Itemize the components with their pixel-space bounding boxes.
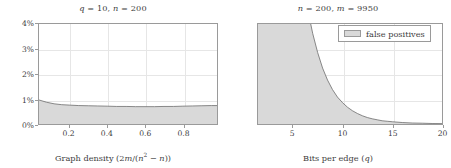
xtick-label-3: 0.8 xyxy=(177,129,189,138)
legend: false positives xyxy=(338,25,431,42)
ytick-label-1: 1% xyxy=(12,95,34,104)
xtick-label-right-2: 15 xyxy=(388,129,398,138)
ytick-label-2: 2% xyxy=(12,70,34,79)
xaxis-label-right: Bits per edge (q) xyxy=(225,153,451,163)
xtick-label-0: 0.2 xyxy=(63,129,75,138)
panel-left-title-n-value: = 200 xyxy=(121,3,147,13)
panel-right-title-m-value: = 9950 xyxy=(347,3,378,13)
xtick-label-2: 0.6 xyxy=(139,129,151,138)
legend-label-false-positives: false positives xyxy=(366,29,425,39)
xtick-mark-right-3 xyxy=(443,125,444,128)
panel-left-title: q = 10, n = 200 xyxy=(0,3,226,13)
xtick-mark-1 xyxy=(107,125,108,128)
figure-container: q = 10, n = 200 0% 1% 2% 3% 4% xyxy=(0,0,451,168)
panel-right-title: n = 200, m = 9950 xyxy=(225,3,451,13)
xtick-label-right-3: 20 xyxy=(438,129,448,138)
xtick-label-right-0: 5 xyxy=(290,129,295,138)
ytick-mark-0 xyxy=(35,125,38,126)
panel-left-title-n-label: n xyxy=(113,3,118,13)
xtick-mark-3 xyxy=(184,125,185,128)
panel-right-title-n-value: = 200, xyxy=(306,3,334,13)
xtick-label-1: 0.4 xyxy=(101,129,113,138)
ytick-label-0: 0% xyxy=(12,121,34,130)
xtick-mark-right-0 xyxy=(292,125,293,128)
plot-area-left xyxy=(38,23,218,125)
ytick-label-3: 3% xyxy=(12,44,34,53)
xtick-mark-2 xyxy=(145,125,146,128)
series-fill-left xyxy=(39,100,217,124)
panel-right-title-n-label: n xyxy=(298,3,303,13)
legend-swatch-icon xyxy=(344,30,361,37)
panel-right-title-m-label: m xyxy=(337,3,345,13)
series-area-left xyxy=(39,24,217,124)
panel-left-title-q-value: = 10, xyxy=(87,3,110,13)
chart-panel-left: q = 10, n = 200 0% 1% 2% 3% 4% xyxy=(0,0,226,168)
xtick-label-right-1: 10 xyxy=(338,129,348,138)
xtick-mark-0 xyxy=(69,125,70,128)
xaxis-label-left: Graph density (2m/(n2 − n)) xyxy=(0,153,226,163)
panel-left-title-q-label: q xyxy=(79,3,84,13)
xtick-mark-right-1 xyxy=(343,125,344,128)
xtick-mark-right-2 xyxy=(393,125,394,128)
ytick-label-4: 4% xyxy=(12,19,34,28)
